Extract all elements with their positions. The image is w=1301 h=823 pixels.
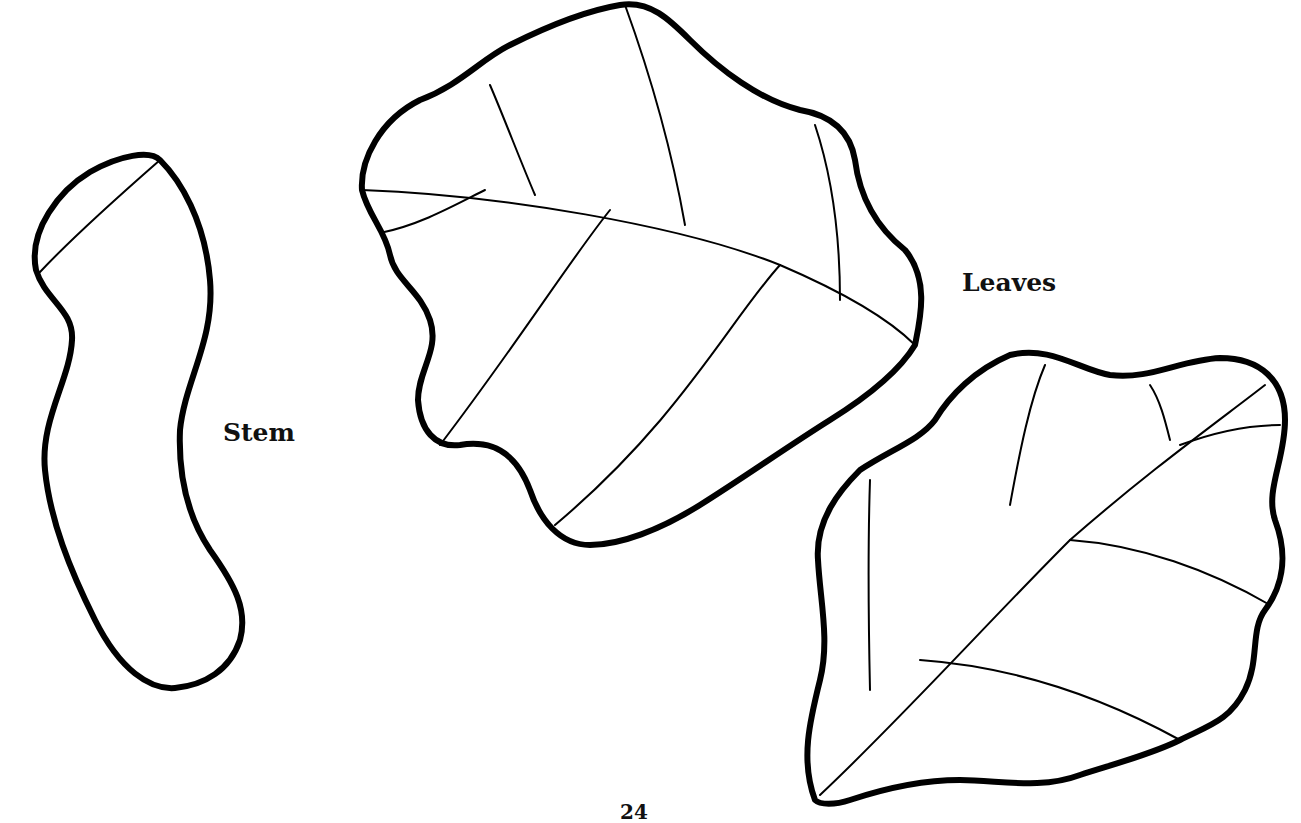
stem-drawing <box>35 155 243 688</box>
leaf-top-drawing <box>362 4 921 545</box>
leaf-bottom-drawing <box>807 353 1285 804</box>
page-number: 24 <box>620 800 648 823</box>
stem-label: Stem <box>223 418 295 447</box>
leaves-label: Leaves <box>962 268 1056 297</box>
